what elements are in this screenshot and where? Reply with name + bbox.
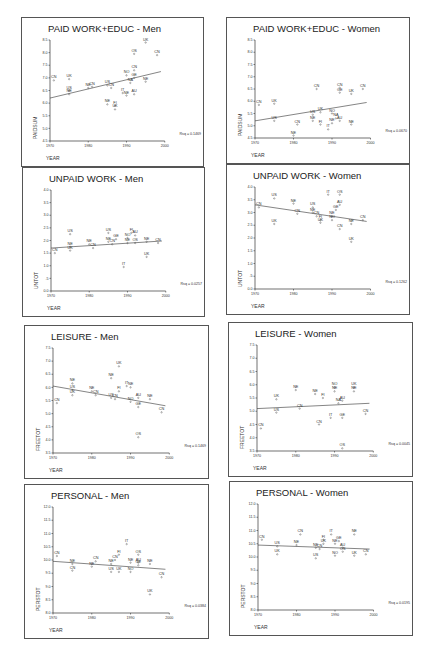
x-tick-label: 2000 [370,613,378,617]
data-point [138,437,139,438]
point-label: CN [360,84,366,88]
point-label: US [275,541,281,545]
y-tick-label: 6.0 [248,99,253,103]
y-tick-label: 4.0 [250,436,255,440]
data-point [351,223,352,224]
point-label: UK [147,589,153,593]
y-axis-label: PAIDSUM [237,114,243,136]
data-point [69,250,70,251]
x-axis-label: YEAR [254,624,268,630]
point-label: OS [136,432,142,436]
chart-title: PAID WORK+EDUC - Women [253,23,380,34]
chart-title: PERSONAL - Men [51,490,129,501]
point-label: NA [333,113,339,117]
point-label: NO [128,397,134,401]
x-tick-label: 1970 [254,613,262,617]
data-point [118,571,119,572]
point-label: NE [109,373,115,377]
x-tick-label: 1980 [290,141,298,145]
data-point [130,387,131,388]
data-point [342,417,343,418]
data-point [274,103,275,104]
point-label: CN [89,82,95,86]
data-point [330,417,331,418]
data-point [258,207,259,208]
x-tick-label: 1990 [331,613,339,617]
point-label: US [109,567,115,571]
data-point [115,239,116,240]
point-label: CN [93,556,99,560]
point-label: NE [294,540,300,544]
data-point [320,222,321,223]
point-label: UK [349,89,355,93]
x-axis-label: YEAR [251,152,265,158]
y-tick-label: 5.5 [46,399,51,403]
y-tick-label: 2.0 [248,236,253,240]
point-label: FI [321,393,324,397]
rsq-label: Rsq = 0.0195 [389,601,410,605]
y-tick-label: 1.0 [44,264,49,268]
y-tick-label: 8.5 [43,38,48,42]
point-label: CN [108,83,114,87]
x-tick-label: 2000 [165,616,173,620]
data-point [149,563,150,564]
point-label: CN [259,535,265,539]
y-tick-label: 9.5 [251,568,256,572]
data-point [351,93,352,94]
point-label: US [67,229,73,233]
y-tick-label: 4.5 [250,423,255,427]
point-label: NE [352,529,358,533]
data-point [354,555,355,556]
point-label: CN [295,209,301,213]
data-point [260,428,261,429]
x-tick-label: 1980 [85,294,93,298]
point-label: IT [329,529,333,533]
point-label: NE [329,118,335,122]
y-tick-label: 8.0 [248,50,253,54]
data-point [138,406,139,407]
data-point [138,554,139,555]
data-point [274,198,275,199]
point-label: CN [159,572,165,576]
data-point [134,235,135,236]
data-point [108,232,109,233]
y-tick-label: 3.5 [248,198,253,202]
chart-title: PAID WORK+EDUC - Men [48,23,161,34]
data-point [72,395,73,396]
x-tick-label: 1980 [88,616,96,620]
data-point [72,570,73,571]
x-axis-label: YEAR [49,467,63,473]
point-label: IT [326,124,330,128]
point-label: NO [329,109,335,113]
point-label: IT [122,262,126,266]
data-point [334,543,335,544]
data-point [118,366,119,367]
y-tick-label: 3.5 [44,201,49,205]
point-label: NE [109,559,115,563]
y-axis-label: UNTOT [237,270,243,287]
point-label: FI [319,120,322,124]
data-point [322,397,323,398]
x-tick-label: 1970 [49,456,57,460]
chart-panel-personal-women: PERSONAL - Women8.08.59.09.510.010.511.0… [229,481,413,636]
data-point [315,558,316,559]
point-label: NE [147,394,153,398]
data-point [161,577,162,578]
data-point [133,94,134,95]
y-tick-label: 8.5 [251,595,256,599]
chart-panel-leisure-men: LEISURE - Men3.54.04.55.05.56.06.57.07.5… [24,325,209,479]
data-point [138,565,139,566]
point-label: OS [132,238,138,242]
point-label: NO [332,551,338,555]
data-point [118,554,119,555]
point-label: CN [90,243,96,247]
chart-panel-unpaid-men: UNPAID WORK - Men0.0.51.01.52.02.53.03.5… [22,167,205,317]
point-label: GE [136,402,142,406]
point-label: IT [329,413,333,417]
point-label: NE [66,89,72,93]
point-label: OS [340,547,346,551]
data-point [365,413,366,414]
x-tick-label: 1980 [292,454,300,458]
data-point [130,82,131,83]
point-label: UK [116,567,122,571]
